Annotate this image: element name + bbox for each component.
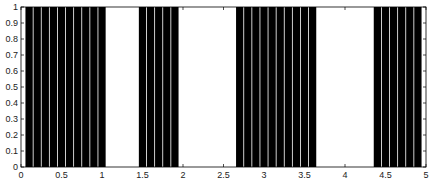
x-tick-label: 2.5 [217, 170, 230, 180]
bar [42, 7, 49, 167]
bar-series [25, 7, 421, 167]
bar [268, 7, 275, 167]
x-tick-label: 0.5 [55, 170, 68, 180]
y-tick-label: 0.2 [5, 130, 18, 140]
bar [374, 7, 381, 167]
x-tick-label: 1 [99, 170, 104, 180]
bar [163, 7, 170, 167]
bar [252, 7, 259, 167]
bar [390, 7, 397, 167]
bar [406, 7, 413, 167]
bar [260, 7, 267, 167]
bar [66, 7, 73, 167]
bar [34, 7, 41, 167]
bar [90, 7, 97, 167]
bar [414, 7, 421, 167]
x-tick-label: 1.5 [136, 170, 149, 180]
y-tick-label: 0.5 [5, 82, 18, 92]
bar [82, 7, 89, 167]
y-tick-label: 0.4 [5, 98, 18, 108]
bar [285, 7, 292, 167]
bar [139, 7, 146, 167]
bar [309, 7, 316, 167]
bar [382, 7, 389, 167]
bar [301, 7, 308, 167]
y-tick-label: 0.1 [5, 146, 18, 156]
x-tick-label: 3.5 [298, 170, 311, 180]
bar [25, 7, 32, 167]
bar [277, 7, 284, 167]
x-tick-label: 0 [18, 170, 23, 180]
y-tick-label: 0.8 [5, 34, 18, 44]
bar [398, 7, 405, 167]
bar [147, 7, 154, 167]
bar [244, 7, 251, 167]
x-tick-label: 4.5 [379, 170, 392, 180]
bar [171, 7, 178, 167]
y-tick-label: 0 [13, 162, 18, 172]
bar [58, 7, 65, 167]
x-tick-label: 2 [180, 170, 185, 180]
y-tick-label: 0.3 [5, 114, 18, 124]
bar [98, 7, 105, 167]
y-tick-label: 0.6 [5, 66, 18, 76]
bar [50, 7, 57, 167]
y-tick-label: 1 [13, 2, 18, 12]
bar [155, 7, 162, 167]
y-tick-label: 0.7 [5, 50, 18, 60]
plot-area-frame [21, 7, 426, 167]
bar [236, 7, 243, 167]
bar [74, 7, 81, 167]
bar-chart: 00.10.20.30.40.50.60.70.80.91 00.511.522… [0, 0, 429, 188]
bar [293, 7, 300, 167]
y-tick-label: 0.9 [5, 18, 18, 28]
x-tick-label: 3 [261, 170, 266, 180]
x-tick-label: 4 [342, 170, 347, 180]
x-tick-label: 5 [423, 170, 428, 180]
